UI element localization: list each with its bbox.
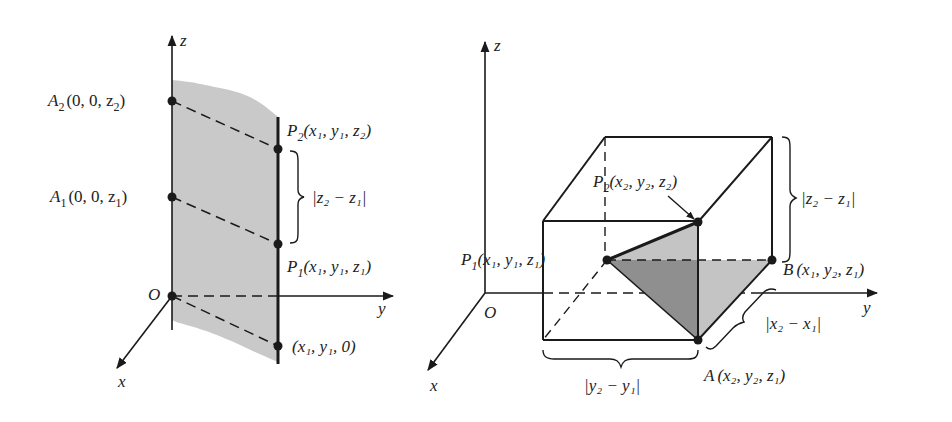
- point-a2: [168, 97, 177, 106]
- point-p2: [274, 145, 283, 154]
- x-axis-right: [428, 293, 485, 370]
- brace-y-right: [543, 350, 698, 367]
- origin-label-right: O: [484, 303, 496, 322]
- brace-label-y-right: |y₂ − y₁|: [584, 376, 640, 395]
- label-a2: A2(0, 0, z2): [47, 91, 125, 114]
- brace-label-z-right: |z₂ − z₁|: [801, 189, 855, 208]
- x-axis-label: x: [117, 372, 126, 391]
- z-axis-label-right: z: [493, 36, 501, 55]
- diagram-canvas: z y x O A2(0, 0, z2) A1(0, 0, z1) P2(x₁,…: [0, 0, 952, 422]
- hidden-edge: [543, 260, 607, 340]
- box-edge: [698, 137, 772, 222]
- x-axis: [117, 296, 172, 368]
- point-p1: [274, 240, 283, 249]
- point-p1-right: [603, 256, 612, 265]
- point-a1: [168, 193, 177, 202]
- point-origin: [168, 292, 177, 301]
- point-base: [274, 342, 283, 351]
- label-p1-left: P1(x₁, y₁, z₁): [286, 257, 371, 280]
- point-b: [768, 256, 777, 265]
- y-axis-label: y: [376, 299, 386, 318]
- brace-z-right: [782, 137, 796, 262]
- left-figure: z y x O A2(0, 0, z2) A1(0, 0, z1) P2(x₁,…: [47, 31, 393, 391]
- point-p2-right: [694, 218, 703, 227]
- brace-label-x-right: |x₂ − x₁|: [765, 314, 821, 333]
- origin-label: O: [148, 285, 160, 304]
- brace-label-z-left: |z₂ − z₁|: [312, 188, 366, 207]
- shaded-plane: [172, 80, 278, 362]
- label-a: A(x₂, y₂, z₁): [703, 366, 785, 385]
- pointer-arrow-p2: [668, 196, 694, 219]
- x-axis-label-right: x: [429, 376, 438, 395]
- right-figure: z y x O P2(x₂, y₂, z₂) P1(x₁, y₁, z₁) B(…: [428, 36, 877, 395]
- label-p2-left: P2(x₁, y₁, z₂): [286, 121, 371, 144]
- point-a: [694, 336, 703, 345]
- y-axis-label-right: y: [861, 298, 871, 317]
- z-axis-label: z: [179, 31, 187, 50]
- label-a1: A1(0, 0, z1): [49, 187, 127, 210]
- label-base-point: (x₁, y₁, 0): [292, 337, 356, 356]
- label-b: B(x₁, y₂, z₁): [783, 260, 864, 279]
- label-p1-right: P1(x₁, y₁, z₁): [460, 250, 545, 273]
- brace-z-left: [290, 151, 304, 243]
